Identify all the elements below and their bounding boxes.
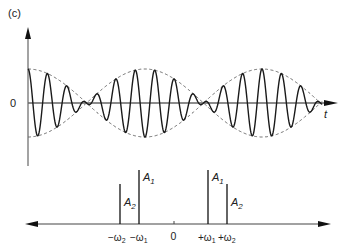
arrow-left-icon (25, 221, 38, 227)
svg-text:A1: A1 (142, 171, 155, 186)
arrow-right-icon (324, 100, 338, 106)
panel-label: (c) (8, 7, 21, 19)
svg-text:−ω1: −ω1 (130, 232, 148, 244)
arrow-up-icon (25, 27, 31, 39)
frequency-axis (25, 221, 331, 227)
vertical-axis (25, 27, 31, 166)
svg-text:A2: A2 (230, 196, 243, 211)
svg-text:+ω1: +ω1 (198, 232, 216, 244)
arrow-right-icon (318, 221, 331, 227)
svg-text:+ω2: +ω2 (218, 232, 236, 244)
svg-text:A2: A2 (123, 196, 136, 211)
svg-text:−ω2: −ω2 (108, 232, 126, 244)
svg-text:A1: A1 (211, 171, 224, 186)
beat-signal-diagram: (c) 0 t 0 A2 −ω2 A1 −ω1 A1 +ω1 A2 (0, 0, 350, 250)
y-zero-label: 0 (10, 97, 16, 109)
origin-label: 0 (171, 230, 177, 242)
time-axis (28, 100, 338, 106)
spectral-line-pos-omega2: A2 +ω2 (218, 184, 243, 244)
envelope-lower (28, 103, 322, 137)
t-axis-label: t (324, 108, 328, 120)
